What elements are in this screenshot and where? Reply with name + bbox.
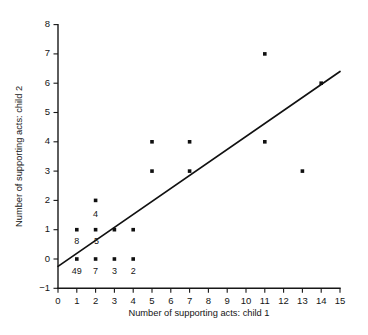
regression-line-path <box>58 71 340 266</box>
point-count-label: 49 <box>72 266 82 276</box>
x-tick-label: 4 <box>131 295 136 306</box>
data-point <box>301 169 305 173</box>
data-point <box>94 199 98 203</box>
x-tick-label: 0 <box>55 295 60 306</box>
x-tick-label: 13 <box>297 295 308 306</box>
data-point <box>131 228 135 232</box>
axis-titles: Number of supporting acts: child 1Number… <box>14 86 270 318</box>
data-point <box>131 257 135 261</box>
x-tick-label: 5 <box>149 295 154 306</box>
x-tick-label: 9 <box>225 295 230 306</box>
y-tick-label: 1 <box>45 223 50 234</box>
data-point <box>150 169 154 173</box>
y-axis-title: Number of supporting acts: child 2 <box>14 86 24 227</box>
data-point <box>75 257 79 261</box>
y-tick-label: 3 <box>45 165 50 176</box>
data-point <box>188 169 192 173</box>
data-point <box>188 140 192 144</box>
point-count-label: 7 <box>93 266 98 276</box>
y-tick-label: −1 <box>39 282 50 293</box>
y-axis: −1012345678 <box>39 18 58 293</box>
data-point <box>319 81 323 85</box>
x-tick-label: 14 <box>316 295 327 306</box>
x-tick-label: 15 <box>335 295 346 306</box>
x-axis: 0123456789101112131415 <box>55 288 345 305</box>
data-point <box>263 52 267 56</box>
data-point <box>263 140 267 144</box>
x-tick-label: 2 <box>93 295 98 306</box>
regression-line <box>58 71 340 266</box>
y-tick-label: 0 <box>45 253 50 264</box>
x-tick-label: 10 <box>241 295 252 306</box>
point-count-label: 4 <box>93 209 98 219</box>
scatter-plot-figure: −1012345678 0123456789101112131415 84549… <box>0 0 368 335</box>
y-tick-label: 4 <box>45 135 50 146</box>
point-count-label: 8 <box>74 236 79 246</box>
x-tick-label: 11 <box>260 295 270 306</box>
x-tick-label: 1 <box>74 295 79 306</box>
y-tick-label: 2 <box>45 194 50 205</box>
y-tick-label: 5 <box>45 106 50 117</box>
x-tick-label: 3 <box>112 295 117 306</box>
y-tick-label: 7 <box>45 47 50 58</box>
data-point <box>113 257 117 261</box>
data-point <box>94 228 98 232</box>
y-tick-label: 6 <box>45 77 50 88</box>
x-tick-label: 7 <box>187 295 192 306</box>
x-axis-title: Number of supporting acts: child 1 <box>128 308 269 318</box>
point-count-label: 2 <box>131 266 136 276</box>
x-tick-label: 8 <box>206 295 211 306</box>
scatter-plot-canvas: −1012345678 0123456789101112131415 84549… <box>0 0 368 335</box>
x-tick-label: 12 <box>278 295 289 306</box>
point-count-label: 3 <box>112 266 117 276</box>
y-tick-label: 8 <box>45 18 50 29</box>
data-point <box>150 140 154 144</box>
data-point <box>113 228 117 232</box>
point-count-label: 5 <box>94 236 99 246</box>
x-tick-label: 6 <box>168 295 173 306</box>
data-point <box>94 257 98 261</box>
data-point <box>75 228 79 232</box>
